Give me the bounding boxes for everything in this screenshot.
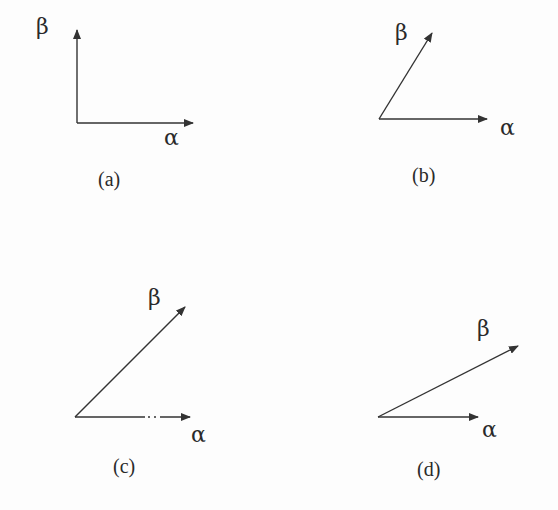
alpha-label-d: α [482,417,497,442]
caption-b: (b) [412,164,435,187]
panel-b: β α (b) [379,20,515,187]
panel-d: β α (d) [378,316,518,481]
caption-a: (a) [98,168,120,191]
caption-d: (d) [417,458,440,481]
panel-c: β α (c) [75,285,206,478]
beta-vector-d [378,346,518,417]
caption-c: (c) [113,455,135,478]
beta-label-a: β [36,14,49,39]
beta-label-c: β [148,285,161,310]
beta-vector-b [379,33,432,119]
beta-label-b: β [395,20,408,45]
alpha-label-a: α [164,125,179,150]
diagram-svg: β α (a) β α (b) β α (c) β α (d) [0,0,558,510]
beta-label-d: β [477,316,490,341]
panel-a: β α (a) [36,14,193,191]
alpha-label-c: α [191,422,206,447]
alpha-label-b: α [500,115,515,140]
beta-vector-c [75,307,185,417]
vector-diagram-figure: β α (a) β α (b) β α (c) β α (d) [0,0,558,510]
